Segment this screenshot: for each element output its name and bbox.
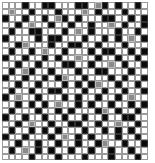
white-cell — [62, 154, 69, 161]
white-cell — [128, 154, 135, 161]
white-cell — [95, 48, 102, 55]
white-cell — [9, 61, 16, 68]
black-cell — [55, 75, 62, 82]
white-cell — [82, 68, 89, 75]
white-cell — [128, 22, 135, 29]
white-cell — [55, 147, 62, 154]
white-cell — [68, 81, 75, 88]
white-cell — [22, 101, 29, 108]
white-cell — [88, 154, 95, 161]
white-cell — [35, 75, 42, 82]
tile-grid — [2, 2, 148, 160]
gray-cell — [62, 75, 69, 82]
white-cell — [88, 2, 95, 9]
white-cell — [2, 68, 9, 75]
white-cell — [141, 68, 148, 75]
black-cell — [15, 61, 22, 68]
black-cell — [48, 2, 55, 9]
white-cell — [35, 127, 42, 134]
black-cell — [115, 134, 122, 141]
black-cell — [88, 81, 95, 88]
white-cell — [108, 9, 115, 16]
gray-cell — [95, 81, 102, 88]
white-cell — [48, 55, 55, 62]
white-cell — [35, 101, 42, 108]
black-cell — [62, 94, 69, 101]
gray-cell — [42, 48, 49, 55]
black-cell — [9, 28, 16, 35]
white-cell — [29, 81, 36, 88]
black-cell — [68, 108, 75, 115]
white-cell — [9, 121, 16, 128]
white-cell — [108, 55, 115, 62]
black-cell — [135, 121, 142, 128]
black-cell — [42, 15, 49, 22]
white-cell — [22, 35, 29, 42]
black-cell — [122, 42, 129, 49]
white-cell — [15, 55, 22, 62]
black-cell — [15, 140, 22, 147]
white-cell — [128, 121, 135, 128]
black-cell — [75, 42, 82, 49]
black-cell — [62, 15, 69, 22]
white-cell — [82, 28, 89, 35]
white-cell — [35, 114, 42, 121]
black-cell — [95, 68, 102, 75]
black-cell — [135, 134, 142, 141]
black-cell — [75, 101, 82, 108]
white-cell — [68, 9, 75, 16]
white-cell — [2, 61, 9, 68]
white-cell — [15, 2, 22, 9]
white-cell — [55, 28, 62, 35]
white-cell — [95, 114, 102, 121]
white-cell — [135, 9, 142, 16]
white-cell — [102, 42, 109, 49]
white-cell — [141, 94, 148, 101]
gray-cell — [95, 2, 102, 9]
white-cell — [115, 75, 122, 82]
gray-cell — [102, 108, 109, 115]
white-cell — [55, 94, 62, 101]
white-cell — [68, 35, 75, 42]
white-cell — [62, 108, 69, 115]
black-cell — [75, 94, 82, 101]
white-cell — [122, 101, 129, 108]
white-cell — [88, 94, 95, 101]
black-cell — [22, 75, 29, 82]
white-cell — [141, 127, 148, 134]
white-cell — [68, 101, 75, 108]
white-cell — [135, 127, 142, 134]
white-cell — [22, 81, 29, 88]
black-cell — [2, 94, 9, 101]
white-cell — [29, 147, 36, 154]
black-cell — [48, 134, 55, 141]
black-cell — [75, 134, 82, 141]
white-cell — [62, 9, 69, 16]
white-cell — [128, 9, 135, 16]
white-cell — [82, 140, 89, 147]
white-cell — [135, 22, 142, 29]
black-cell — [2, 55, 9, 62]
black-cell — [128, 101, 135, 108]
black-cell — [2, 114, 9, 121]
white-cell — [122, 94, 129, 101]
white-cell — [88, 35, 95, 42]
white-cell — [9, 94, 16, 101]
white-cell — [29, 108, 36, 115]
black-cell — [48, 35, 55, 42]
white-cell — [2, 127, 9, 134]
white-cell — [108, 2, 115, 9]
white-cell — [35, 121, 42, 128]
black-cell — [128, 15, 135, 22]
white-cell — [115, 48, 122, 55]
white-cell — [88, 15, 95, 22]
white-cell — [141, 154, 148, 161]
white-cell — [95, 35, 102, 42]
white-cell — [128, 134, 135, 141]
black-cell — [62, 61, 69, 68]
white-cell — [9, 101, 16, 108]
white-cell — [128, 108, 135, 115]
gray-cell — [9, 9, 16, 16]
white-cell — [108, 81, 115, 88]
white-cell — [122, 134, 129, 141]
